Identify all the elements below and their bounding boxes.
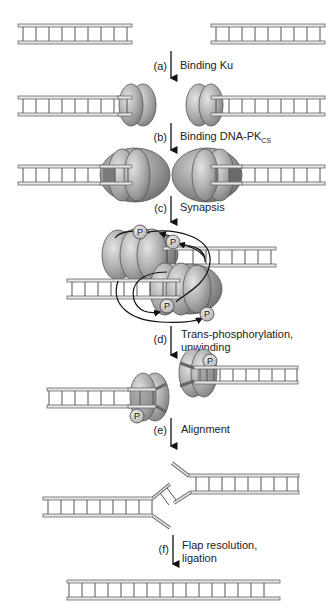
stage-ku-bound [18, 84, 325, 126]
step-letter: (b) [154, 131, 167, 143]
step-letter: (a) [154, 60, 167, 72]
step-label: Binding Ku [180, 59, 233, 71]
step-b: (b) Binding DNA-PKCS [154, 123, 272, 150]
phosphate: P [133, 225, 147, 239]
step-label: Flap resolution, [182, 539, 257, 551]
svg-text:P: P [170, 237, 176, 247]
dna-lower-left [67, 279, 180, 299]
phosphate: P [130, 409, 144, 423]
stage-dna-pkcs-bound [18, 148, 325, 202]
svg-text:P: P [204, 309, 210, 319]
dna-pkcs-complex-left [100, 148, 170, 202]
step-label: Binding DNA-PKCS [180, 130, 271, 144]
dna-left [18, 24, 132, 44]
stage-synaptic-complex: P P P P [67, 225, 276, 322]
phosphate: P [160, 299, 174, 313]
step-f: (f) Flap resolution, ligation [159, 535, 258, 564]
dna-left [18, 96, 132, 116]
step-a: (a) Binding Ku [154, 51, 234, 78]
dna-right [211, 96, 325, 116]
step-label: Alignment [181, 423, 230, 435]
svg-text:P: P [137, 227, 143, 237]
dna-left [43, 497, 153, 517]
dna-pkcs-complex-right [172, 148, 243, 202]
phosphate: P [200, 307, 214, 321]
nhej-diagram: (a) Binding Ku [0, 0, 331, 613]
step-letter: (f) [159, 543, 169, 555]
stage-ligated-dna [67, 580, 280, 600]
step-label: Trans-phosphorylation, [181, 328, 293, 340]
svg-text:P: P [207, 356, 213, 366]
dna-right [242, 165, 325, 185]
step-letter: (e) [154, 424, 167, 436]
step-e: (e) Alignment [154, 418, 230, 446]
step-letter: (c) [154, 202, 167, 214]
step-label-line2: ligation [182, 552, 217, 564]
ku-protein-left [118, 84, 156, 126]
flap-junction [153, 463, 191, 528]
svg-text:P: P [164, 301, 170, 311]
stage-unwound-ends: P P [47, 349, 298, 423]
stage-broken-dna-ends [18, 24, 325, 44]
ku-protein-right [186, 84, 223, 126]
svg-text:P: P [134, 411, 140, 421]
stage-aligned-ends [43, 463, 299, 528]
dna-right [211, 24, 325, 44]
step-d: (d) Trans-phosphorylation, unwinding [154, 326, 294, 355]
step-label: Synapsis [180, 201, 225, 213]
phosphate: P [166, 235, 180, 249]
step-letter: (d) [154, 333, 167, 345]
dna-right [189, 474, 299, 494]
